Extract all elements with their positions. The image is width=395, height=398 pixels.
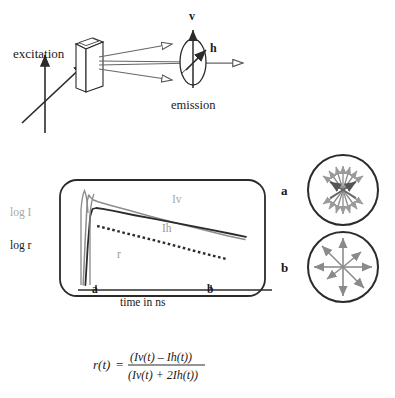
x-tick-b: b: [207, 283, 213, 295]
apparatus-diagram: excitation emission v h: [13, 9, 243, 133]
equation-equals: =: [116, 357, 123, 372]
equation-numerator: (Iv(t) – Ih(t)): [130, 350, 192, 364]
equation-denominator: (Iv(t) + 2Ih(t)): [128, 368, 198, 382]
x-axis-label: time in ns: [120, 296, 166, 308]
v-polarization-label: v: [189, 9, 195, 23]
inset-circle-a: a: [281, 155, 378, 225]
emission-label: emission: [171, 98, 216, 112]
series-label-r: r: [117, 248, 121, 260]
sample-cuvette: [76, 38, 103, 92]
inset-a-label: a: [281, 183, 288, 198]
decay-chart: log I log r a b time in ns: [10, 180, 272, 308]
excitation-label: excitation: [13, 46, 65, 61]
equation-lhs: r(t): [93, 357, 110, 372]
figure-canvas: excitation emission v h log I log r a b …: [0, 0, 395, 398]
series-label-iv: Iv: [172, 193, 182, 205]
inset-circle-b: b: [281, 232, 378, 302]
x-tick-a: a: [92, 283, 98, 295]
y-axis-anisotropy-label: log r: [10, 239, 32, 252]
inset-b-label: b: [281, 260, 288, 275]
anisotropy-figure: excitation emission v h log I log r a b …: [0, 0, 395, 398]
series-label-ih: Ih: [162, 222, 172, 234]
anisotropy-equation: r(t) = (Iv(t) – Ih(t)) (Iv(t) + 2Ih(t)): [93, 350, 205, 382]
y-axis-intensity-label: log I: [10, 206, 32, 219]
h-polarization-label: h: [210, 41, 217, 55]
